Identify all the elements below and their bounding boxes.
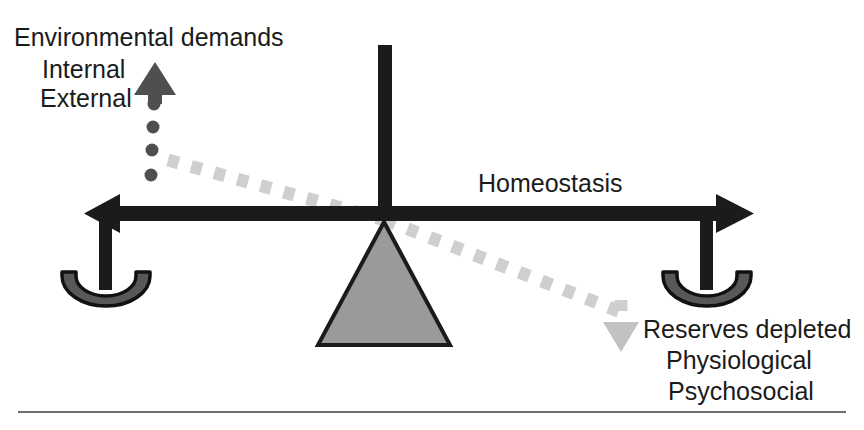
label-external: External: [40, 83, 132, 114]
label-psychosocial: Psychosocial: [668, 376, 814, 407]
beam-right-arrowhead: [716, 194, 754, 233]
label-physiological: Physiological: [666, 345, 812, 376]
label-homeostasis: Homeostasis: [478, 168, 623, 199]
right-balance-pan: [663, 218, 751, 306]
figure-canvas: Environmental demands Internal External …: [0, 0, 864, 430]
vertical-dot-column: [145, 98, 161, 182]
up-arrow: [134, 62, 176, 104]
down-arrow: [603, 322, 639, 352]
caption-divider-rule: [18, 411, 846, 413]
left-balance-pan: [62, 218, 150, 306]
label-internal: Internal: [42, 54, 125, 85]
vertical-pole: [378, 45, 392, 221]
label-environmental-demands: Environmental demands: [14, 22, 284, 53]
label-reserves-depleted: Reserves depleted: [643, 314, 851, 345]
